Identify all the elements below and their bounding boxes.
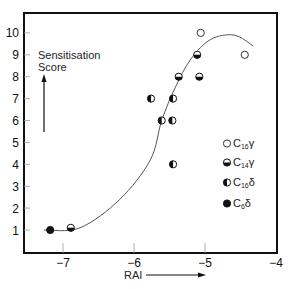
- data-point-open-circle-icon: [197, 29, 204, 36]
- legend-bottom-half-filled-circle-icon: [223, 159, 230, 166]
- x-tick-label: −6: [127, 256, 141, 270]
- x-tick-label: −5: [198, 256, 212, 270]
- legend-left-half-filled-circle-icon: [223, 179, 230, 186]
- legend-label: C16γ: [233, 137, 255, 150]
- x-axis-label: RAI: [124, 269, 142, 281]
- legend-label: C14γ: [233, 156, 255, 169]
- right-arrow-icon: [146, 273, 206, 278]
- legend-filled-circle-icon: [223, 200, 230, 207]
- y-tick-label: 6: [12, 114, 19, 128]
- x-tick-label: −7: [56, 256, 70, 270]
- legend-label: C6δ: [233, 197, 251, 210]
- fit-curve: [44, 35, 253, 231]
- legend-item: C6δ: [223, 197, 251, 210]
- y-tick-label: 8: [12, 70, 19, 84]
- y-axis-ticks: 12345678910: [6, 26, 30, 237]
- y-tick-label: 5: [12, 136, 19, 150]
- y-tick-label: 3: [12, 180, 19, 194]
- legend-open-circle-icon: [223, 140, 230, 147]
- y-tick-label: 9: [12, 48, 19, 62]
- data-point-left-half-filled-circle-icon: [169, 161, 176, 168]
- y-annotation-line2: Score: [38, 61, 67, 73]
- up-arrow-icon: [42, 74, 47, 132]
- x-axis-ticks: −7−6−5−4: [56, 243, 283, 270]
- y-tick-label: 1: [12, 224, 19, 238]
- y-tick-label: 10: [6, 26, 20, 40]
- data-point-filled-circle-icon: [47, 226, 54, 233]
- data-point-bottom-half-filled-circle-icon: [175, 73, 182, 80]
- x-tick-label: −4: [269, 256, 283, 270]
- legend-label: C16δ: [233, 176, 255, 189]
- data-point-open-circle-icon: [241, 51, 248, 58]
- y-tick-label: 4: [12, 158, 19, 172]
- legend-item: C16γ: [223, 137, 254, 150]
- data-point-bottom-half-filled-circle-icon: [196, 73, 203, 80]
- y-tick-label: 2: [12, 202, 19, 216]
- legend: C16γC14γC16δC6δ: [223, 137, 254, 210]
- y-tick-label: 7: [12, 92, 19, 106]
- data-point-bottom-half-filled-circle-icon: [194, 51, 201, 58]
- y-annotation-line1: Sensitisation: [38, 49, 100, 61]
- data-point-left-half-filled-circle-icon: [169, 95, 176, 102]
- legend-item: C14γ: [223, 156, 254, 169]
- data-point-left-half-filled-circle-icon: [147, 95, 154, 102]
- data-point-left-half-filled-circle-icon: [158, 117, 165, 124]
- data-point-bottom-half-filled-circle-icon: [67, 224, 74, 231]
- sensitisation-chart: 12345678910 −7−6−5−4 Sensitisation Score…: [0, 0, 290, 289]
- data-point-left-half-filled-circle-icon: [169, 117, 176, 124]
- legend-item: C16δ: [223, 176, 254, 189]
